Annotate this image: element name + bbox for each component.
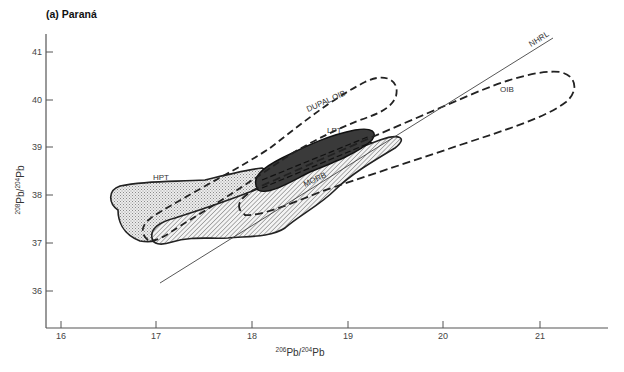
x-axis-label: 206Pb/204Pb — [276, 346, 325, 358]
lpt-label: LPT — [327, 126, 342, 135]
x-tick-label: 17 — [151, 331, 161, 341]
y-tick-label: 37 — [32, 238, 42, 248]
x-tick-label: 16 — [56, 331, 66, 341]
y-tick-label: 38 — [32, 190, 42, 200]
x-tick-label: 20 — [438, 331, 448, 341]
hpt-label: HPT — [153, 173, 169, 182]
x-tick-label: 19 — [343, 331, 353, 341]
nhrl-label: NHRL — [527, 29, 551, 48]
isotope-chart: (a) Paraná 41 40 39 38 37 36 1 — [0, 0, 624, 372]
y-tick-label: 39 — [32, 142, 42, 152]
oib-label: OIB — [500, 85, 514, 94]
y-tick-label: 40 — [32, 95, 42, 105]
y-tick-label: 36 — [32, 286, 42, 296]
nhrl-line — [160, 38, 553, 283]
y-ticks: 41 40 39 38 37 36 — [32, 47, 53, 296]
y-tick-label: 41 — [32, 47, 42, 57]
x-tick-label: 18 — [247, 331, 257, 341]
chart-title: (a) Paraná — [46, 8, 97, 20]
dupal-oib-label: DUPAL OIB — [305, 89, 347, 114]
y-axis-label: 208Pb/204Pb — [14, 165, 26, 214]
x-ticks: 16 17 18 19 20 21 — [56, 321, 545, 341]
x-tick-label: 21 — [535, 331, 545, 341]
